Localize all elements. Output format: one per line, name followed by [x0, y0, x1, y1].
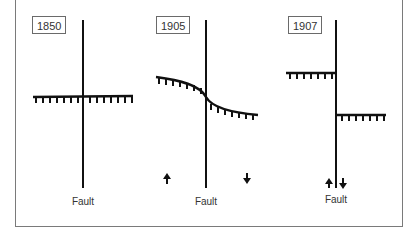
- panel-1907: [286, 20, 386, 189]
- down-arrow-icon: [339, 178, 347, 189]
- fault-label-1905: Fault: [195, 196, 217, 207]
- year-label-1905: 1905: [156, 16, 190, 34]
- down-arrow-icon: [243, 173, 251, 184]
- year-label-1850: 1850: [32, 16, 66, 34]
- up-arrow-icon: [163, 173, 171, 184]
- fault-label-1907: Fault: [325, 194, 347, 205]
- up-arrow-icon: [325, 178, 333, 188]
- ground-surface: [33, 96, 133, 97]
- panel-1905: [156, 20, 258, 188]
- year-label-1907: 1907: [288, 16, 322, 34]
- panel-1850: [33, 20, 133, 188]
- fault-label-1850: Fault: [72, 196, 94, 207]
